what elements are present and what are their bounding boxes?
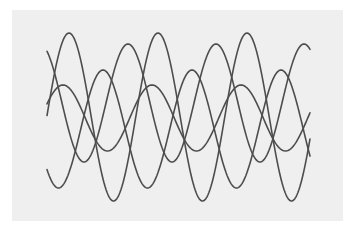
wave-group [47,33,310,201]
sine-waves-figure [0,0,355,241]
wave-1-curve [47,33,310,201]
